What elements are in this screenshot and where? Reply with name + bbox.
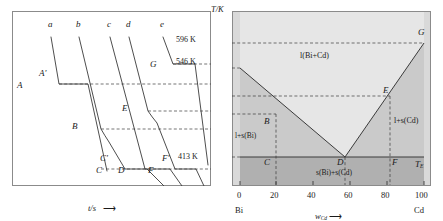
curve-label-b: b (76, 20, 81, 29)
phase-y-axis-label: T/K (211, 5, 224, 14)
curve-label-e: e (160, 20, 164, 29)
xtick-label-40: 40 (307, 191, 316, 200)
temperature-label-596: 596 K (176, 36, 196, 44)
figure-root: a b c d e A A' B C C' D E F F' G 596 K 5… (0, 0, 443, 221)
point-label-G: G (150, 60, 157, 69)
xtick-label-60: 60 (344, 191, 353, 200)
cooling-curve-a (51, 37, 107, 171)
point-label-D: D (118, 166, 125, 175)
eutectic-temperature-label: TE (415, 160, 423, 170)
temperature-label-546: 546 K (176, 58, 196, 66)
phase-diagram-plot (232, 11, 431, 186)
phase-point-label-G: G (418, 28, 425, 37)
region-label-liquid: l(Bi+Cd) (300, 52, 329, 60)
phase-point-label-E: E (383, 86, 389, 95)
curve-label-a: a (48, 20, 53, 29)
eutectic-temperature-subscript: E (420, 163, 423, 169)
region-label-solid-solid: s(Bi)+s(Cd) (316, 169, 352, 177)
phase-point-label-C: C (264, 158, 270, 167)
phase-point-label-F: F (392, 158, 398, 167)
point-label-F-prime: F' (162, 154, 169, 163)
phase-x-axis-subscript: Cd (321, 215, 327, 221)
curve-label-c: c (107, 20, 111, 29)
region-label-liquid-solid-cd: l+s(Cd) (394, 117, 419, 125)
component-label-bi: Bi (235, 206, 243, 215)
point-label-C: C (96, 166, 102, 175)
point-label-E: E (122, 104, 128, 113)
cooling-x-axis-arrow: ⟶ (103, 203, 116, 213)
phase-point-label-D: D (337, 158, 344, 167)
xtick-label-20: 20 (270, 191, 279, 200)
xtick-label-80: 80 (381, 191, 390, 200)
region-label-liquid-solid-bi: l+s(Bi) (235, 132, 256, 140)
phase-point-label-B: B (264, 117, 270, 126)
point-label-A: A (17, 81, 23, 90)
point-label-A-prime: A' (39, 69, 46, 78)
point-label-C-prime: C' (100, 154, 108, 163)
xtick-label-0: 0 (237, 191, 241, 200)
temperature-label-413: 413 K (178, 153, 198, 161)
cooling-x-axis-text: t/s (88, 203, 96, 213)
cooling-x-axis-label: t/s ⟶ (88, 198, 116, 214)
phase-x-axis-label: wCd⟶ (315, 206, 342, 221)
point-label-B: B (72, 122, 78, 131)
xtick-label-100: 100 (415, 191, 428, 200)
component-label-cd: Cd (414, 206, 424, 215)
point-label-F: F (148, 166, 154, 175)
phase-x-axis-arrow: ⟶ (329, 211, 342, 221)
curve-label-d: d (126, 20, 131, 29)
